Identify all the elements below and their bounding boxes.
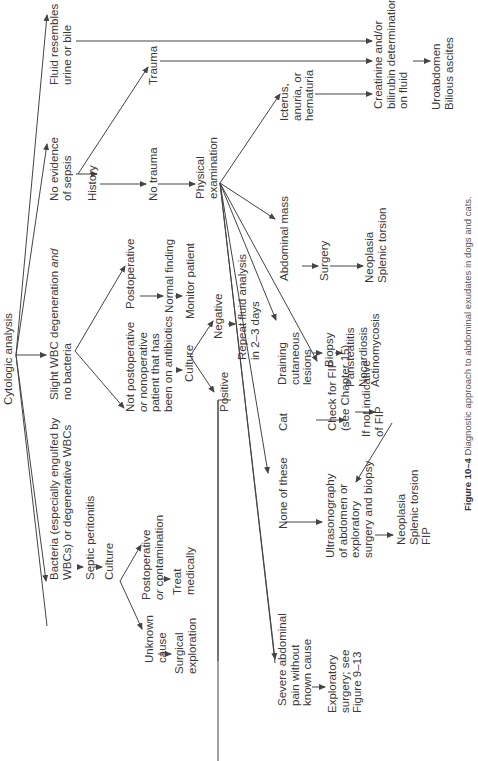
- node-slight-wbc: Slight WBC degeneration and no bacteria: [48, 248, 73, 400]
- node-trauma: Trauma: [147, 46, 160, 85]
- node-neoplasia-fip: Neoplasia Splenic torsion FIP: [395, 470, 433, 545]
- flowchart-canvas: Cytologic analysis Fluid resembles urine…: [0, 0, 478, 761]
- node-fluid-urine-bile: Fluid resembles urine or bile: [48, 4, 73, 85]
- node-ultrasonography: Ultrasonography of abdomen or explorator…: [324, 461, 374, 558]
- node-normal-finding: Normal finding: [163, 239, 176, 313]
- node-physical-examination: Physical examination: [194, 137, 219, 199]
- node-no-trauma: No trauma: [147, 147, 160, 201]
- node-cat: Cat: [277, 413, 290, 431]
- node-severe-pain: Severe abdominal pain without known caus…: [276, 613, 314, 706]
- figure-caption: Figure 10–4 Diagnostic approach to abdom…: [462, 196, 475, 511]
- node-draining-lesions: Draining cutaneous lesions: [276, 332, 314, 385]
- node-not-postoperative: Not postoperative or nonoperative patien…: [124, 316, 174, 412]
- node-negative: Negative: [212, 294, 225, 339]
- node-neoplasia-splenic: Neoplasia Splenic torsion: [363, 208, 388, 283]
- node-repeat-fluid: Repeat fluid analysis in 2–3 days: [236, 254, 261, 360]
- node-postoperative: Postoperative: [124, 239, 137, 309]
- node-unknown-cause: Unknown cause: [143, 615, 168, 663]
- node-history: History: [86, 165, 99, 201]
- node-culture-slight: Culture: [183, 345, 196, 382]
- figure-label: Figure 10–4: [462, 458, 473, 511]
- node-check-fip: Check for FIP (see Chapter 15): [326, 345, 351, 431]
- node-culture-bacteria: Culture: [103, 543, 116, 580]
- node-cytologic-analysis: Cytologic analysis: [2, 313, 15, 405]
- node-treat-medically: Treat medically: [171, 547, 196, 595]
- node-no-evidence-sepsis: No evidence of sepsis: [48, 137, 73, 201]
- node-surgical-exploration: Surgical exploration: [173, 618, 198, 674]
- node-uroabdomen: Uroabdomen Bilious ascites: [430, 37, 455, 110]
- node-none-of-these: None of these: [277, 457, 290, 529]
- node-positive: Positive: [218, 372, 231, 412]
- node-bacteria: Bacteria (especially engulfed by WBCs) o…: [48, 418, 73, 580]
- node-creatinine: Creatinine and/or bilirubin determinatio…: [372, 0, 410, 109]
- node-exploratory-surgery: Exploratory surgery; see Figure 9–13: [326, 650, 364, 713]
- node-surgery: Surgery: [318, 241, 331, 281]
- node-postop-contamination: Postoperative or contamination: [140, 515, 165, 600]
- node-icterus: Icterus, anuria, or hematuria: [278, 70, 316, 121]
- node-abdominal-mass: Abdominal mass: [278, 196, 291, 281]
- node-if-not-fip: If not indicative of FIP: [360, 360, 385, 437]
- figure-caption-text: Diagnostic approach to abdominal exudate…: [462, 196, 473, 455]
- node-monitor-patient: Monitor patient: [184, 243, 197, 319]
- node-septic-peritonitis: Septic peritonitis: [84, 496, 97, 580]
